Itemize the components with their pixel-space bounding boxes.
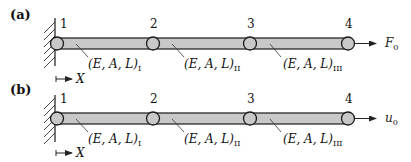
- element-label: (E, A, L)III: [283, 132, 343, 148]
- element-label: (E, A, L)III: [283, 57, 343, 73]
- element-label: (E, A, L)I: [88, 57, 141, 73]
- node-label: 1: [60, 92, 68, 106]
- node-2-icon: [147, 37, 160, 50]
- node-label: 4: [345, 92, 353, 106]
- bar-element: [55, 38, 348, 49]
- node-label: 4: [345, 17, 353, 31]
- node-1-icon: [51, 37, 64, 50]
- node-4-icon: [342, 37, 355, 50]
- bar-element: [55, 113, 348, 124]
- axis-label: X: [75, 146, 85, 160]
- axis-label: X: [75, 72, 85, 86]
- node-4-icon: [342, 112, 355, 125]
- element-label: (E, A, L)II: [184, 57, 240, 73]
- load-label: u0: [385, 111, 398, 127]
- panel-b: (b) 1 2 3 4 (E, A, L)I (E, A, L)II (E, A…: [10, 82, 398, 160]
- node-label: 2: [150, 92, 158, 106]
- node-label: 2: [150, 17, 158, 31]
- panel-label: (b): [10, 82, 31, 97]
- x-axis-arrow-icon: [56, 76, 72, 82]
- node-1-icon: [51, 112, 64, 125]
- node-2-icon: [147, 112, 160, 125]
- node-label: 3: [247, 17, 255, 31]
- panel-label: (a): [10, 7, 31, 22]
- load-label: F0: [384, 36, 398, 52]
- x-axis-arrow-icon: [56, 150, 72, 156]
- node-3-icon: [244, 112, 257, 125]
- node-3-icon: [244, 37, 257, 50]
- element-label: (E, A, L)I: [88, 132, 141, 148]
- bar-diagram: (a) 1 2 3 4 (E, A, L)I (E, A, L)II (E: [0, 0, 411, 162]
- node-label: 3: [247, 92, 255, 106]
- node-label: 1: [60, 17, 68, 31]
- panel-a: (a) 1 2 3 4 (E, A, L)I (E, A, L)II (E: [10, 7, 398, 86]
- element-label: (E, A, L)II: [184, 132, 240, 148]
